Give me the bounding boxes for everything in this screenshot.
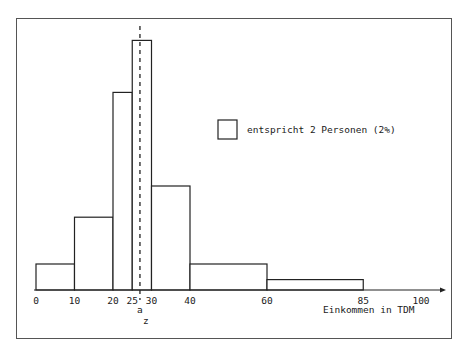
x-tick-label: 10 [69, 295, 81, 306]
histogram-bar-30-40 [152, 186, 191, 290]
histogram-bar-20-25 [113, 92, 132, 290]
x-tick-label: 60 [261, 295, 273, 306]
histogram-chart: 010202530406085100 a z Einkommen in TDM … [0, 0, 467, 356]
x-tick-label: 100 [412, 295, 429, 306]
histogram-bars [36, 40, 363, 290]
histogram-bar-0-10 [36, 264, 75, 290]
mark-a-label: a [137, 304, 143, 315]
histogram-bar-60-85 [267, 280, 363, 290]
x-tick-label: 20 [107, 295, 119, 306]
x-tick-label: 40 [184, 295, 196, 306]
x-axis-arrow-icon [440, 288, 446, 293]
histogram-bar-40-60 [190, 264, 267, 290]
legend-label: entspricht 2 Personen (2%) [247, 124, 396, 135]
x-tick-label: 30 [146, 295, 158, 306]
histogram-bar-25-30 [132, 40, 151, 290]
x-axis-label: Einkommen in TDM [323, 304, 415, 315]
histogram-bar-10-20 [75, 217, 114, 290]
mark-z-label: z [143, 315, 149, 326]
x-tick-label: 0 [33, 295, 39, 306]
legend-square-icon [218, 120, 237, 139]
